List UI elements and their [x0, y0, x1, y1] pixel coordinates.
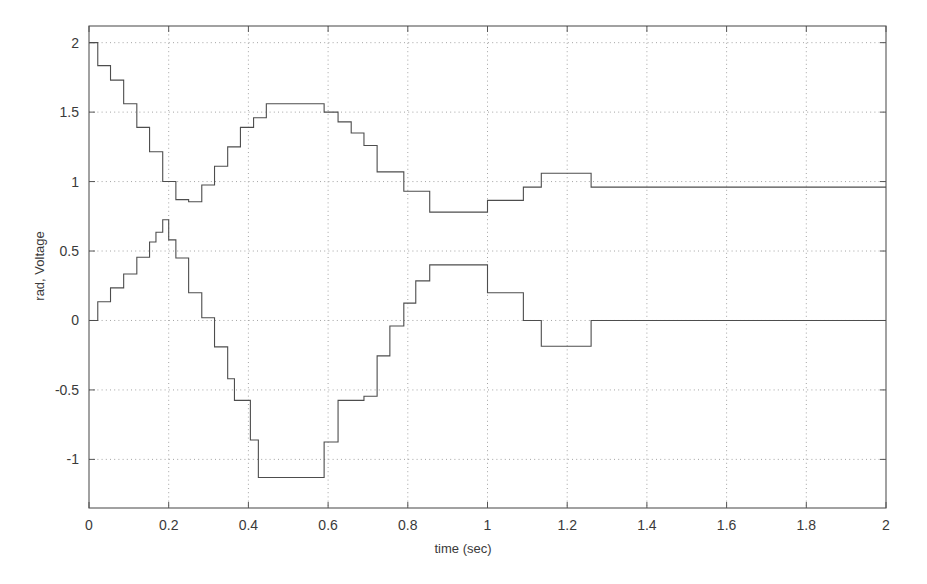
x-tick-label: 1.6 [717, 517, 737, 533]
line-chart: 00.20.40.60.811.21.41.61.82-1-0.500.511.… [0, 0, 927, 584]
y-tick-label: 0.5 [60, 243, 80, 259]
x-tick-label: 0.8 [398, 517, 418, 533]
series-line-lower [89, 220, 886, 478]
y-tick-label: -0.5 [55, 382, 79, 398]
y-tick-label: 1.5 [60, 104, 80, 120]
data-series-layer [89, 43, 886, 478]
y-tick-label: -1 [67, 451, 80, 467]
y-axis-title: rad, Voltage [32, 231, 47, 300]
axis-tick-labels: 00.20.40.60.811.21.41.61.82-1-0.500.511.… [55, 35, 890, 533]
x-tick-label: 0.4 [239, 517, 259, 533]
y-tick-label: 1 [71, 174, 79, 190]
x-tick-label: 1.4 [637, 517, 657, 533]
figure-canvas: 00.20.40.60.811.21.41.61.82-1-0.500.511.… [0, 0, 927, 584]
x-tick-label: 1.8 [797, 517, 817, 533]
x-tick-label: 2 [882, 517, 890, 533]
x-tick-label: 1 [484, 517, 492, 533]
y-tick-label: 2 [71, 35, 79, 51]
x-tick-label: 0 [85, 517, 93, 533]
x-tick-label: 1.2 [557, 517, 577, 533]
x-tick-label: 0.2 [159, 517, 179, 533]
y-tick-label: 0 [71, 312, 79, 328]
x-tick-label: 0.6 [318, 517, 338, 533]
x-axis-title: time (sec) [434, 541, 491, 556]
